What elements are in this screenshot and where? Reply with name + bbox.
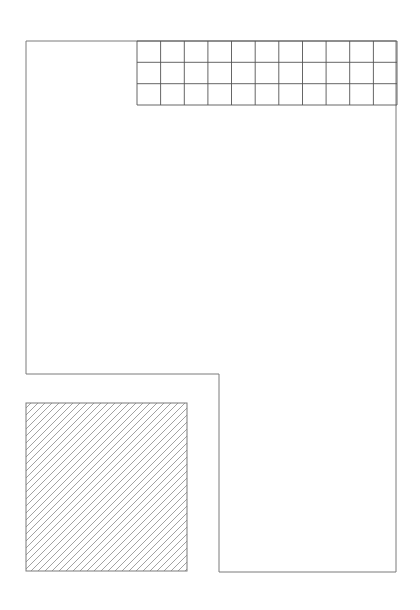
- grid-table: [137, 41, 397, 105]
- hatched-square-rect: [26, 403, 187, 571]
- hatched-square: [26, 403, 187, 571]
- diagram-canvas: [0, 0, 420, 610]
